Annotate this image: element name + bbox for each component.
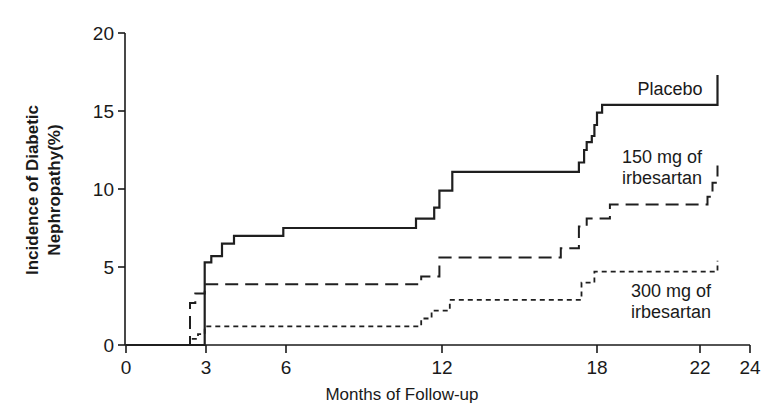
x-tick-label: 24 <box>739 357 761 378</box>
y-tick-label: 10 <box>93 179 114 200</box>
series-lines <box>126 75 718 345</box>
series-label: 150 mg of <box>622 147 703 167</box>
series-label: irbesartan <box>622 168 702 188</box>
x-tick-label: 3 <box>201 357 212 378</box>
y-axis: 05101520 <box>93 23 125 356</box>
x-tick-label: 22 <box>689 357 710 378</box>
series-labels: Placebo150 mg ofirbesartan300 mg ofirbes… <box>622 79 712 322</box>
x-axis-title: Months of Follow-up <box>325 385 478 404</box>
x-tick-label: 18 <box>586 357 607 378</box>
y-tick-label: 5 <box>103 257 114 278</box>
x-tick-label: 6 <box>281 357 292 378</box>
series-label: 300 mg of <box>631 281 712 301</box>
series-label: Placebo <box>637 79 702 99</box>
series-placebo <box>126 75 718 345</box>
y-tick-label: 20 <box>93 23 114 44</box>
y-axis-title-line: Incidence of Diabetic <box>23 105 42 275</box>
x-axis: 03612182224 <box>121 345 761 378</box>
series-300-mg-of-irbesartan <box>126 261 718 345</box>
y-tick-label: 15 <box>93 101 114 122</box>
x-tick-label: 0 <box>121 357 132 378</box>
y-axis-title: Incidence of DiabeticNephropathy(%) <box>23 105 64 275</box>
y-tick-label: 0 <box>103 335 114 356</box>
y-axis-title-line: Nephropathy(%) <box>45 124 64 255</box>
x-tick-label: 12 <box>431 357 452 378</box>
chart: 05101520 03612182224 Incidence of Diabet… <box>0 0 779 416</box>
series-label: irbesartan <box>631 302 711 322</box>
